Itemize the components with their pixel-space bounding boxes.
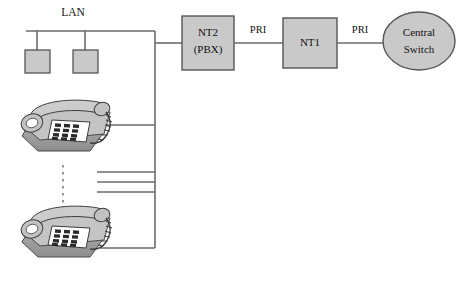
telephone-bottom[interactable] [19, 206, 112, 257]
nt1-node[interactable]: NT1 [283, 18, 337, 68]
telephone-top[interactable] [19, 100, 112, 151]
pbx-label-line2: (PBX) [194, 43, 223, 56]
lan-label: LAN [61, 6, 85, 18]
central-switch-label-line2: Switch [404, 43, 435, 55]
central-switch-label-line1: Central [403, 26, 435, 38]
pri-link-nt1-central: PRI [337, 24, 385, 43]
pri-label-2: PRI [352, 24, 369, 35]
central-switch-ellipse[interactable] [383, 12, 455, 70]
lan-terminal-2[interactable] [73, 50, 98, 73]
nt1-label: NT1 [300, 36, 320, 48]
pri-label-1: PRI [250, 24, 267, 35]
pbx-node[interactable]: NT2 (PBX) [182, 16, 234, 70]
diagram-canvas: LAN NT2 [0, 0, 475, 292]
central-switch-node[interactable]: Central Switch [383, 12, 455, 70]
pri-link-pbx-nt1: PRI [234, 24, 283, 43]
lan-segment: LAN [25, 6, 155, 73]
network-diagram: LAN NT2 [0, 0, 475, 292]
pbx-label-line1: NT2 [198, 26, 218, 38]
lan-terminal-1[interactable] [25, 50, 50, 73]
